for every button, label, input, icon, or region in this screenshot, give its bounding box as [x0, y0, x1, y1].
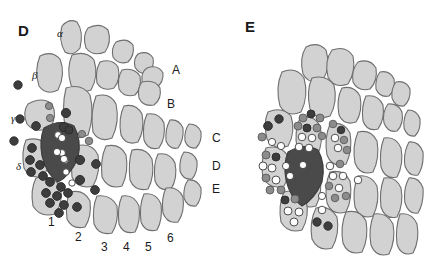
panel-d-marker-dot-dark-22 [92, 160, 101, 169]
panel-e-marker-dot-light-25 [268, 164, 276, 172]
panel-d-cell-0 [61, 21, 82, 54]
panel-e-marker-dot-light-18 [331, 134, 339, 142]
panel-d-cell-5 [37, 54, 63, 93]
panel-d-marker-dot-dark-27 [42, 189, 51, 198]
panel-e-marker-dot-light-11 [298, 133, 306, 141]
panel-label-d: D [18, 22, 29, 39]
panel-e-cell-2 [353, 61, 377, 90]
panel-e-cell-1 [327, 48, 354, 85]
panel-e-marker-dot-dark-17 [337, 126, 345, 134]
panel-e-cell-21 [380, 178, 401, 218]
panel-d-marker-dot-dark-33 [73, 203, 82, 212]
panel-e-marker-dot-light-35 [339, 172, 347, 180]
panel-d-marker-dot-dark-28 [53, 192, 62, 201]
panel-e-marker-dot-mid-19 [340, 136, 348, 144]
panel-e-marker-dot-mid-22 [262, 151, 270, 159]
panel-e-marker-dot-mid-36 [325, 182, 333, 190]
panel-e-marker-dot-dark-23 [272, 153, 280, 161]
panel-d-cell-2 [112, 40, 133, 63]
arc-label-d-5: 5 [145, 240, 152, 254]
panel-d-marker-dot-dark-5 [10, 137, 18, 145]
row-label-d-b: B [167, 97, 175, 111]
panel-d-cell-26 [118, 196, 139, 233]
figure-root: DABCDEαβγδ123456E [0, 0, 424, 263]
panel-d-cell-15 [166, 120, 183, 148]
arc-label-d-2: 2 [75, 230, 82, 244]
panel-e-marker-dot-dark-48 [324, 222, 332, 230]
panel-d-marker-dot-dark-21 [75, 155, 84, 164]
row-label-d-d: D [212, 159, 221, 173]
panel-e-marker-dot-light-20 [334, 144, 342, 152]
panel-e-cell-15 [380, 138, 401, 178]
panel-e-marker-dot-mid-21 [343, 146, 351, 154]
panel-d-marker-dot-dark-16 [28, 144, 37, 153]
panel-e-marker-dot-mid-10 [313, 124, 321, 132]
panel-e-marker-dot-dark-0 [264, 122, 273, 131]
panel-e-marker-dot-mid-7 [316, 114, 324, 122]
panel-d-marker-dot-mid-2 [46, 114, 53, 121]
panel-e-marker-dot-dark-47 [313, 218, 321, 226]
panel-e-marker-dot-light-34 [329, 172, 337, 180]
panel-e-marker-dot-mid-2 [258, 133, 266, 141]
row-label-d-c: C [212, 131, 221, 145]
panel-e-marker-dot-dark-42 [281, 196, 289, 204]
panel-d-dark-cell-dot-light-1 [53, 148, 60, 155]
row-label-d-a: A [172, 63, 180, 77]
panel-d-dark-cell-dot-light-0 [58, 134, 65, 141]
panel-d-cell-19 [102, 145, 127, 187]
panel-e-marker-dot-mid-43 [291, 195, 299, 203]
panel-d-marker-dot-dark-19 [27, 168, 36, 177]
panel-label-e: E [245, 18, 255, 35]
panel-d-marker-dot-mid-10 [85, 137, 93, 145]
panel-e-cell-9 [384, 104, 403, 131]
panel-d-marker-dot-dark-3 [16, 115, 24, 123]
panel-e-marker-dot-mid-39 [342, 192, 350, 200]
panel-d-marker-dot-dark-20 [39, 172, 48, 181]
panel-d-marker-dot-mid-9 [78, 130, 85, 137]
panel-d-marker-dot-dark-4 [32, 122, 41, 131]
panel-e-cell-4 [392, 82, 410, 106]
panel-d-marker-dot-dark-8 [65, 126, 73, 134]
panel-e-cell-27 [396, 214, 417, 254]
panel-d-marker-dot-light-15 [69, 180, 75, 186]
panel-e-marker-dot-light-32 [326, 162, 334, 170]
panel-e-marker-dot-mid-16 [329, 120, 337, 128]
panel-e-marker-dot-mid-26 [262, 174, 270, 182]
panel-e-cell-5 [278, 70, 306, 114]
panel-e-marker-dot-dark-1 [275, 115, 283, 123]
panel-e-marker-dot-mid-28 [266, 186, 274, 194]
panel-d-cell-8 [118, 69, 140, 96]
panel-e-marker-dot-dark-6 [307, 110, 315, 118]
panel-e-cell-8 [362, 96, 383, 130]
panel-d-marker-dot-dark-17 [26, 156, 35, 165]
panel-d-cell-25 [93, 196, 117, 234]
panel-e-cell-26 [370, 214, 394, 255]
panel-e-cell-14 [354, 131, 378, 173]
panel-d-cell-27 [140, 194, 161, 231]
panel-d-marker-dot-mid-1 [45, 102, 52, 109]
panel-e-cell-22 [405, 178, 424, 213]
panel-d-cell-21 [154, 154, 175, 190]
panel-d-marker-dot-dark-31 [60, 201, 69, 210]
panel-e-marker-dot-light-31 [286, 172, 293, 179]
panel-e-marker-dot-mid-8 [294, 122, 302, 130]
panel-e-marker-dot-light-3 [268, 138, 275, 145]
panel-e-cell-group [262, 45, 423, 255]
panel-d-cell-29 [184, 180, 201, 206]
greek-label-d-1: β [32, 69, 37, 81]
panel-e-marker-dot-light-27 [272, 176, 280, 184]
panel-e-marker-dot-light-4 [277, 142, 284, 149]
panel-e-marker-dot-light-45 [295, 208, 303, 216]
panel-e-cell-25 [342, 211, 367, 253]
panel-d-marker-dot-dark-29 [64, 189, 73, 198]
panel-d-cell-7 [96, 61, 118, 89]
panel-e-marker-dot-light-41 [354, 176, 362, 184]
panel-d-cell-6 [69, 53, 96, 91]
panel-e-marker-dot-mid-5 [299, 114, 307, 122]
panel-e-marker-dot-mid-38 [331, 194, 339, 202]
arc-label-d-4: 4 [123, 240, 130, 254]
greek-label-d-3: δ [16, 160, 21, 172]
panel-d-marker-dot-dark-32 [55, 209, 64, 218]
panel-e-marker-dot-mid-33 [336, 160, 344, 168]
panel-d-marker-dot-dark-23 [75, 175, 84, 184]
